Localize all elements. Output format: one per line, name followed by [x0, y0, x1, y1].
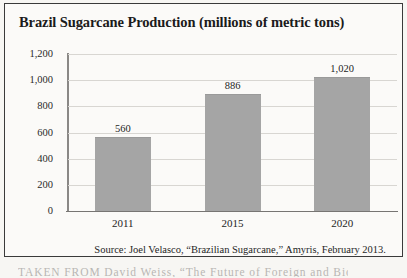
y-axis-tick-label: 1,000: [3, 75, 53, 86]
bar: [314, 77, 370, 211]
y-axis-tick-label: 200: [3, 180, 53, 191]
gridline: [68, 54, 397, 55]
bar: [95, 137, 151, 211]
y-axis-tick-label: 0: [3, 206, 53, 217]
chart-title: Brazil Sugarcane Production (millions of…: [19, 14, 397, 31]
bar-value-label: 1,020: [307, 64, 377, 75]
scanned-page: Brazil Sugarcane Production (millions of…: [0, 0, 407, 278]
bar-value-label: 886: [198, 81, 268, 92]
y-axis-tick-label: 400: [3, 154, 53, 165]
x-axis-baseline: [66, 211, 398, 213]
bar-value-label: 560: [88, 124, 158, 135]
figure-frame: Brazil Sugarcane Production (millions of…: [4, 3, 403, 257]
y-axis-tick-label: 1,200: [3, 49, 53, 60]
x-axis-tick-label: 2015: [193, 217, 273, 229]
plot-area: 5608861,020: [68, 54, 397, 211]
x-axis-tick-label: 2020: [302, 217, 382, 229]
bar: [205, 94, 261, 211]
y-axis-tick-label: 800: [3, 101, 53, 112]
cutoff-text-below-figure: TAKEN FROM David Weiss, “The Future of F…: [18, 266, 348, 277]
source-note: Source: Joel Velasco, “Brazilian Sugarca…: [94, 244, 386, 255]
y-axis-tick-label: 600: [3, 128, 53, 139]
x-axis-tick-label: 2011: [83, 217, 163, 229]
